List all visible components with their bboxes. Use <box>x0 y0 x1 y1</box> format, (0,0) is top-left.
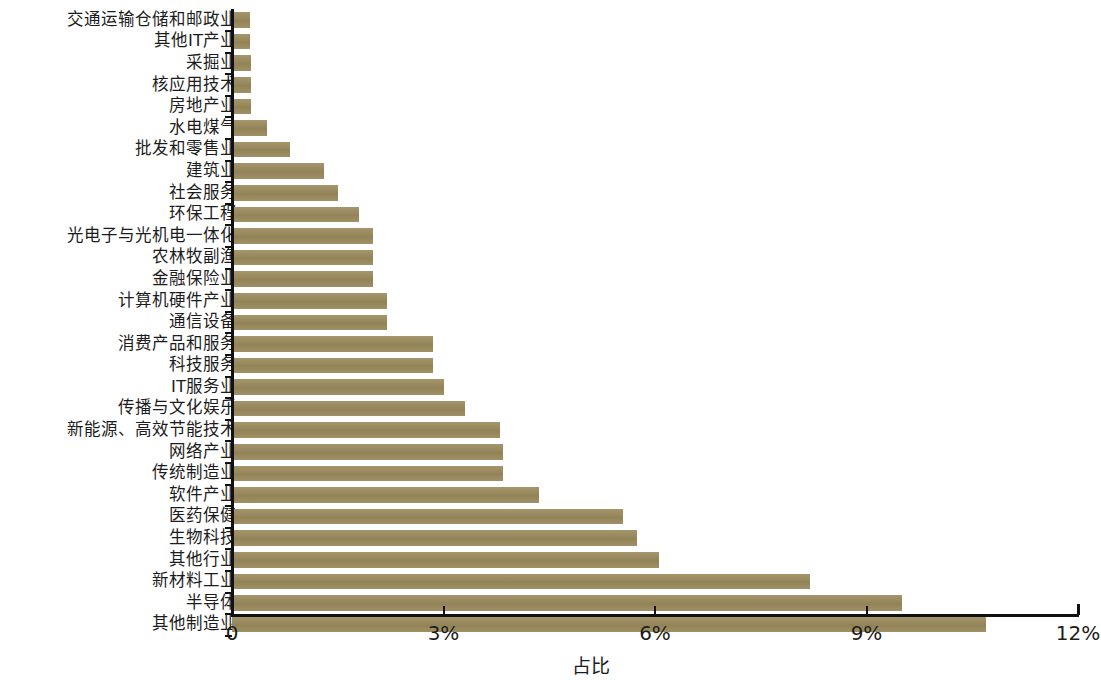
bar-row: 其他IT产业 <box>0 31 1101 53</box>
y-axis-tick <box>225 505 232 507</box>
bar-row: 核应用技术 <box>0 74 1101 96</box>
bar-row: IT服务业 <box>0 376 1101 398</box>
x-axis-tick-label: 6% <box>639 621 671 645</box>
x-axis-tick <box>1077 604 1080 615</box>
bar-row: 传统制造业 <box>0 462 1101 484</box>
bar-track <box>232 398 1092 420</box>
x-axis-tick-label: 3% <box>428 621 460 645</box>
bar-row: 其他制造业 <box>0 614 1101 636</box>
bar-track <box>232 484 1092 506</box>
bar-category-label: 核应用技术 <box>0 76 237 94</box>
y-axis-tick <box>225 95 232 97</box>
bar-track <box>232 247 1092 269</box>
bar <box>232 379 444 395</box>
bar <box>232 142 290 158</box>
y-axis-tick <box>225 613 232 615</box>
bar-track <box>232 74 1092 96</box>
bar <box>232 358 433 374</box>
x-axis-tick <box>654 606 656 615</box>
bar-track <box>232 506 1092 528</box>
y-axis-tick <box>225 592 232 594</box>
bar-category-label: 金融保险业 <box>0 270 237 288</box>
x-axis-tick-label: 12% <box>1056 621 1100 645</box>
x-axis-tick <box>866 606 868 615</box>
bar <box>232 293 387 309</box>
bar-category-label: 批发和零售业 <box>0 140 237 158</box>
bar-category-label: 科技服务 <box>0 356 237 374</box>
bar <box>232 336 433 352</box>
bar-category-label: 其他IT产业 <box>0 32 237 50</box>
bar-row: 建筑业 <box>0 160 1101 182</box>
bar-track <box>232 203 1092 225</box>
bar <box>232 250 373 266</box>
y-axis-tick <box>225 160 232 162</box>
bar <box>232 595 902 611</box>
bar-category-label: 环保工程 <box>0 205 237 223</box>
bar <box>232 271 373 287</box>
bar-track <box>232 419 1092 441</box>
bar-row: 通信设备 <box>0 311 1101 333</box>
y-axis-tick <box>225 289 232 291</box>
bar-category-label: 新材料工业 <box>0 572 237 590</box>
bar-track <box>232 31 1092 53</box>
y-axis-tick <box>225 311 232 313</box>
bar-track <box>232 182 1092 204</box>
bar-category-label: 水电煤气 <box>0 119 237 137</box>
bar <box>232 552 659 568</box>
bar <box>232 55 251 71</box>
bar-category-label: 传统制造业 <box>0 464 237 482</box>
bar <box>232 120 267 136</box>
bar-row: 批发和零售业 <box>0 139 1101 161</box>
bar-row: 交通运输仓储和邮政业 <box>0 9 1101 31</box>
bar-category-label: 建筑业 <box>0 162 237 180</box>
bar-row: 社会服务 <box>0 182 1101 204</box>
plot-area: 交通运输仓储和邮政业其他IT产业采掘业核应用技术房地产业水电煤气批发和零售业建筑… <box>0 0 1101 680</box>
bar <box>232 530 637 546</box>
bar-row: 金融保险业 <box>0 268 1101 290</box>
bar-track <box>232 570 1092 592</box>
bar-row: 传播与文化娱乐 <box>0 398 1101 420</box>
y-axis-tick <box>225 484 232 486</box>
bar-track <box>232 376 1092 398</box>
bar <box>232 207 359 223</box>
y-axis-tick <box>225 635 232 637</box>
bar <box>232 77 251 93</box>
bar-track <box>232 139 1092 161</box>
y-axis-tick <box>225 462 232 464</box>
bar-category-label: 医药保健 <box>0 507 237 525</box>
bar-category-label: 消费产品和服务 <box>0 335 237 353</box>
bar-row: 消费产品和服务 <box>0 333 1101 355</box>
bar-track <box>232 290 1092 312</box>
bar-track <box>232 333 1092 355</box>
bar <box>232 99 251 115</box>
bar-track <box>232 9 1092 31</box>
bar-category-label: 社会服务 <box>0 184 237 202</box>
y-axis-tick <box>225 354 232 356</box>
bar-row: 软件产业 <box>0 484 1101 506</box>
bar-category-label: 其他制造业 <box>0 615 237 633</box>
bar-track <box>232 95 1092 117</box>
bar-row: 生物科技 <box>0 527 1101 549</box>
bar <box>232 487 539 503</box>
y-axis-tick <box>225 246 232 248</box>
y-axis-tick <box>225 181 232 183</box>
bar-row: 科技服务 <box>0 355 1101 377</box>
bar-category-label: 采掘业 <box>0 54 237 72</box>
bar <box>232 228 373 244</box>
y-axis-tick <box>225 376 232 378</box>
bar-category-label: 光电子与光机电一体化 <box>0 227 237 245</box>
bar-row: 环保工程 <box>0 203 1101 225</box>
y-axis-tick <box>225 419 232 421</box>
bar <box>232 574 810 590</box>
x-axis-title: 占比 <box>0 651 1101 678</box>
x-axis-tick <box>443 606 445 615</box>
bar-category-label: 新能源、高效节能技术 <box>0 421 237 439</box>
bar-row: 其他行业 <box>0 549 1101 571</box>
bar-track <box>232 117 1092 139</box>
bar-category-label: 房地产业 <box>0 97 237 115</box>
x-axis-title-text: 占比 <box>572 655 610 677</box>
x-axis-tick-label: 0 <box>226 621 239 645</box>
y-axis-tick <box>225 30 232 32</box>
y-axis-tick <box>225 268 232 270</box>
bar-row: 农林牧副渔 <box>0 247 1101 269</box>
